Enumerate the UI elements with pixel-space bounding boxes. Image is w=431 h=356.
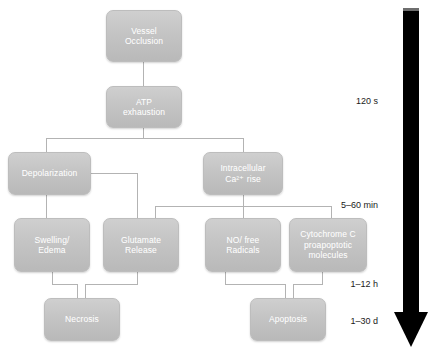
node-atp-exhaustion-line-1: ATP: [123, 97, 165, 107]
timeline-arrow-icon: [392, 6, 430, 352]
node-depolarization-line-1: Depolarization: [22, 168, 78, 178]
node-swelling-edema[interactable]: Swelling/ Edema: [14, 218, 90, 272]
node-vessel-occlusion-line-1: Vessel: [125, 26, 163, 36]
node-intracellular-ca-rise-line-2: Ca²⁺ rise: [220, 174, 265, 184]
node-no-free-radicals[interactable]: NO/ free Radicals: [205, 218, 281, 272]
node-cytochrome-c-line-2: proapoptotic: [300, 240, 356, 250]
node-cytochrome-c-proapoptotic-molecules[interactable]: Cytochrome C proapoptotic molecules: [289, 218, 367, 272]
connector-depolarization-to-glutamate-h: [91, 173, 137, 174]
diagram-canvas: Vessel Occlusion ATP exhaustion Depolari…: [0, 0, 431, 356]
node-atp-exhaustion[interactable]: ATP exhaustion: [106, 86, 182, 128]
connector-depolarization-to-glutamate-v: [137, 173, 138, 218]
connector-bus-to-glutamate: [155, 206, 156, 218]
connector-bus-row2: [46, 138, 244, 139]
node-intracellular-ca-rise-line-1: Intracellular: [220, 163, 265, 173]
node-swelling-edema-line-2: Edema: [35, 245, 70, 255]
timeline-label-5-60-min: 5–60 min: [300, 200, 378, 210]
node-depolarization[interactable]: Depolarization: [8, 152, 91, 195]
timeline-label-1-30-d: 1–30 d: [300, 316, 378, 326]
node-glutamate-release[interactable]: Glutamate Release: [103, 218, 179, 272]
connector-swelling-to-necrosis-h: [52, 284, 77, 285]
node-atp-exhaustion-line-2: exhaustion: [123, 107, 165, 117]
connector-radicals-to-apoptosis-h: [225, 284, 285, 285]
timeline-label-120s: 120 s: [300, 96, 378, 106]
node-swelling-edema-line-1: Swelling/: [35, 235, 70, 245]
node-glutamate-release-line-2: Release: [121, 245, 161, 255]
connector-glutamate-to-necrosis-h: [85, 284, 137, 285]
connector-swelling-to-necrosis-v2: [77, 284, 78, 298]
timeline-label-1-12-h: 1–12 h: [300, 279, 378, 289]
connector-bus-to-depolarization: [46, 138, 47, 152]
connector-vessel-to-atp: [143, 62, 144, 86]
connector-bus-to-intracellular-ca: [243, 138, 244, 152]
node-vessel-occlusion-line-2: Occlusion: [125, 36, 163, 46]
connector-depolarization-to-swelling: [46, 195, 47, 218]
connector-bus-to-no-radicals: [243, 206, 244, 218]
node-intracellular-ca-rise[interactable]: Intracellular Ca²⁺ rise: [203, 152, 283, 195]
node-vessel-occlusion[interactable]: Vessel Occlusion: [106, 10, 182, 62]
connector-cytochrome-to-apoptosis-v2: [293, 284, 294, 298]
node-necrosis-line-1: Necrosis: [65, 314, 99, 324]
node-cytochrome-c-line-1: Cytochrome C: [300, 229, 356, 239]
node-no-free-radicals-line-2: Radicals: [226, 245, 259, 255]
connector-glutamate-to-necrosis-v1: [137, 272, 138, 285]
node-cytochrome-c-line-3: molecules: [300, 250, 356, 260]
connector-radicals-to-apoptosis-v2: [285, 284, 286, 298]
node-no-free-radicals-line-1: NO/ free: [226, 235, 259, 245]
node-glutamate-release-line-1: Glutamate: [121, 235, 161, 245]
node-necrosis[interactable]: Necrosis: [44, 298, 120, 341]
connector-glutamate-to-necrosis-v2: [85, 284, 86, 298]
